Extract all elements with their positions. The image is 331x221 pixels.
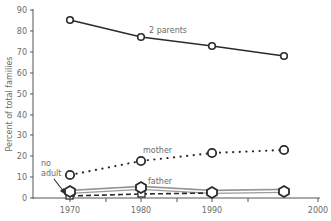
x-tick-2000: 2000 <box>308 206 328 215</box>
label-no-adult-line1: no <box>41 159 51 168</box>
label-no-adult-line2: adult <box>41 169 61 178</box>
series-father <box>70 186 284 192</box>
y-tick-30: 30 <box>17 131 27 140</box>
label-father: father <box>148 177 173 186</box>
y-tick-20: 20 <box>17 152 27 161</box>
y-tick-40: 40 <box>17 111 27 120</box>
series-2-parents <box>67 17 288 60</box>
label-2-parents: 2 parents <box>149 26 187 35</box>
series-mother <box>66 146 288 179</box>
y-tick-80: 80 <box>17 27 27 36</box>
y-tick-70: 70 <box>17 48 27 57</box>
x-axis <box>33 198 320 202</box>
y-tick-90: 90 <box>17 6 27 15</box>
y-tick-50: 50 <box>17 90 27 99</box>
x-tick-labels: 1970 1980 1990 2000 <box>60 206 328 215</box>
label-mother: mother <box>143 146 173 155</box>
y-tick-60: 60 <box>17 69 27 78</box>
x-tick-1970: 1970 <box>60 206 80 215</box>
line-chart: 90 80 70 60 50 40 30 20 10 0 Percent of … <box>0 0 331 221</box>
y-axis-title: Percent of total families <box>5 56 14 151</box>
x-tick-1980: 1980 <box>131 206 151 215</box>
y-tick-labels: 90 80 70 60 50 40 30 20 10 0 <box>17 6 27 203</box>
y-tick-0: 0 <box>22 194 27 203</box>
y-axis <box>30 9 33 199</box>
arrow-icon <box>54 179 66 195</box>
y-tick-10: 10 <box>17 173 27 182</box>
x-tick-1990: 1990 <box>202 206 222 215</box>
